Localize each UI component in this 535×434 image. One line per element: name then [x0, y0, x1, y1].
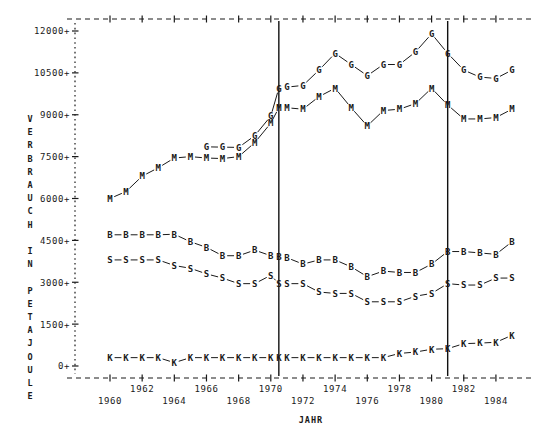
data-point-marker-K: K: [461, 339, 467, 349]
series-segment: [243, 252, 250, 255]
data-point-marker-B: B: [445, 247, 451, 257]
series-segment: [259, 277, 267, 281]
series-segment: [114, 193, 122, 196]
series-segment: [339, 56, 348, 62]
series-segment: [354, 111, 364, 122]
data-point-marker-M: M: [284, 103, 290, 113]
series-segment: [323, 90, 331, 94]
data-point-marker-S: S: [348, 289, 353, 299]
data-point-marker-G: G: [365, 71, 370, 81]
data-point-marker-S: S: [477, 280, 482, 290]
data-point-marker-B: B: [509, 237, 515, 247]
series-segment: [435, 254, 444, 261]
data-point-marker-S: S: [461, 280, 466, 290]
data-point-marker-M: M: [316, 92, 322, 102]
series-segment: [500, 72, 508, 76]
series-segment: [371, 114, 380, 123]
series-segment: [178, 236, 186, 240]
series-segment: [484, 280, 492, 283]
data-point-marker-B: B: [139, 230, 145, 240]
y-axis-title-char: C: [27, 206, 32, 216]
data-point-marker-K: K: [429, 345, 435, 355]
series-segment: [179, 157, 186, 158]
data-point-marker-B: B: [284, 253, 290, 263]
data-point-marker-G: G: [477, 72, 482, 82]
x-axis: 1962196619701974197819821960196419681972…: [98, 384, 508, 406]
x-tick-label: 1980: [420, 396, 444, 406]
data-point-marker-K: K: [172, 358, 178, 368]
x-axis-title: JAHR: [299, 415, 323, 425]
series-segment: [451, 57, 461, 67]
data-point-marker-K: K: [316, 353, 322, 363]
data-point-marker-K: K: [477, 338, 483, 348]
data-point-marker-S: S: [276, 279, 281, 289]
series-segment: [339, 262, 347, 265]
data-point-marker-S: S: [172, 261, 177, 271]
data-point-marker-S: S: [397, 297, 402, 307]
x-tick-label: 1984: [484, 396, 508, 406]
line-chart: 0+1500+3000+4500+6000+7500+9000+10500+12…: [0, 0, 535, 434]
series-segment: [195, 270, 202, 273]
x-tick-label: 1978: [387, 384, 411, 394]
data-point-marker-G: G: [284, 82, 289, 92]
y-axis-title-char: R: [27, 140, 33, 150]
series-B: BBBBBBBBBBBBBBBBBBBBBBBBBBB: [107, 230, 515, 282]
x-tick-label: 1966: [194, 384, 218, 394]
data-point-marker-M: M: [268, 118, 274, 128]
x-tick-label: 1976: [355, 396, 379, 406]
y-axis-title-char: H: [27, 220, 32, 230]
series-segment: [338, 92, 348, 104]
series-segment: [372, 273, 379, 276]
data-point-marker-M: M: [413, 99, 419, 109]
data-point-marker-S: S: [139, 255, 144, 265]
data-point-marker-G: G: [348, 60, 353, 70]
series-segment: [404, 298, 411, 301]
series-segment: [404, 105, 411, 108]
data-point-marker-B: B: [107, 230, 113, 240]
series-K: KKKKKKKKKKKKKKKKKKKKKKKKKKK: [107, 331, 515, 368]
y-axis-title-char: N: [27, 259, 32, 269]
data-point-marker-K: K: [139, 353, 145, 363]
data-point-marker-B: B: [252, 245, 258, 255]
data-point-marker-B: B: [172, 230, 178, 240]
data-point-marker-M: M: [220, 154, 226, 164]
data-point-marker-B: B: [316, 255, 322, 265]
series-segment: [146, 170, 154, 174]
data-point-marker-G: G: [493, 74, 498, 84]
data-point-marker-S: S: [445, 279, 450, 289]
series-segment: [435, 37, 445, 49]
y-axis-title-char: E: [27, 299, 32, 309]
data-point-marker-S: S: [284, 279, 289, 289]
reference-lines: [279, 21, 448, 376]
series-segment: [500, 337, 508, 340]
series-segment: [419, 91, 428, 100]
series-segment: [500, 111, 508, 115]
y-tick-label: 9000+: [40, 110, 70, 120]
data-point-marker-G: G: [397, 60, 402, 70]
data-point-marker-M: M: [172, 153, 178, 163]
y-axis-title-char: E: [27, 127, 32, 137]
y-tick-label: 12000+: [34, 26, 70, 36]
series-segment: [420, 294, 427, 295]
data-point-marker-M: M: [381, 106, 387, 116]
data-point-marker-G: G: [220, 142, 225, 152]
data-point-marker-S: S: [365, 297, 370, 307]
series-segment: [452, 345, 459, 347]
y-tick-label: 6000+: [40, 194, 70, 204]
data-point-marker-M: M: [107, 194, 113, 204]
series-segment: [322, 57, 332, 67]
series-segment: [324, 292, 331, 293]
data-point-marker-S: S: [332, 289, 337, 299]
series-segment: [291, 259, 299, 262]
series-segment: [435, 92, 445, 102]
series-segment: [484, 77, 491, 78]
y-tick-label: 3000+: [40, 278, 70, 288]
series-segment: [129, 179, 138, 188]
x-tick-label: 1960: [98, 396, 122, 406]
data-point-marker-B: B: [156, 230, 162, 240]
y-tick-label: 1500+: [40, 320, 70, 330]
data-point-marker-B: B: [477, 248, 483, 258]
x-tick-label: 1970: [259, 384, 283, 394]
series-segment: [306, 73, 315, 82]
series-segment: [451, 108, 460, 116]
